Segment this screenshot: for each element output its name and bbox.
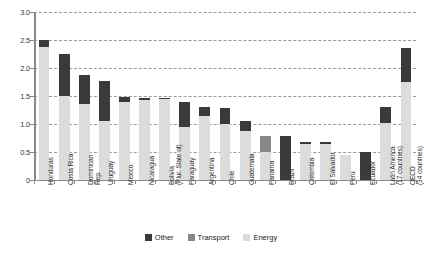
chart-legend: OtherTransportEnergy <box>0 233 422 242</box>
x-axis-label-line: (34 countries) <box>416 146 423 185</box>
legend-label: Other <box>155 233 174 242</box>
y-axis-tick-label: 1.5 <box>4 92 30 101</box>
x-axis-label-line: Ecuador <box>369 161 376 185</box>
x-axis-tick-mark <box>135 180 136 184</box>
bar-segment-other <box>99 81 110 121</box>
x-axis-label: Argentina <box>208 158 215 185</box>
legend-item[interactable]: Other <box>145 233 174 242</box>
x-axis-label-line: Argentina <box>208 158 215 185</box>
x-axis-label-line: Guatemala <box>248 154 255 185</box>
legend-label: Energy <box>253 233 277 242</box>
bar-group[interactable] <box>360 12 371 180</box>
bar-group[interactable] <box>280 12 291 180</box>
x-axis-label-line: El Salvador <box>329 152 336 185</box>
x-axis-label-line: Peru <box>349 171 356 185</box>
x-axis-label-line: Costa Rica <box>67 154 74 185</box>
x-axis-label: Ecuador <box>369 161 376 185</box>
x-axis-label-line: Nicaragua <box>148 156 155 185</box>
bar-group[interactable] <box>139 12 150 180</box>
x-axis-label: OECD(34 countries) <box>409 146 424 185</box>
bar-segment-other <box>199 107 210 115</box>
x-axis-label-line: Latin America <box>389 146 396 185</box>
x-axis-labels: HondurasCosta RicaDominicanRep.UruguayMe… <box>34 185 416 233</box>
x-axis-label-line: Mexico <box>127 165 134 185</box>
x-axis-label: Costa Rica <box>67 154 74 185</box>
x-axis-label-line: Brazil <box>288 169 295 185</box>
x-axis-tick-mark <box>295 180 296 184</box>
bar-group[interactable] <box>340 12 351 180</box>
x-axis-label: Colombia <box>308 158 315 185</box>
bar-group[interactable] <box>300 12 311 180</box>
bar-group[interactable] <box>260 12 271 180</box>
x-axis-label: Guatemala <box>248 154 255 185</box>
legend-swatch <box>188 234 195 241</box>
x-axis-label: Brazil <box>288 169 295 185</box>
bar-group[interactable] <box>39 12 50 180</box>
bar-segment-other <box>401 48 412 82</box>
x-axis-tick-mark <box>34 180 35 184</box>
x-axis-label: DominicanRep. <box>87 155 102 185</box>
bar-group[interactable] <box>220 12 231 180</box>
y-axis-tick-label: 3.0 <box>4 8 30 17</box>
x-axis-tick-mark <box>114 180 115 184</box>
x-axis-label-line: Dominican <box>87 155 94 185</box>
bar-segment-other <box>39 40 50 47</box>
bar-segment-transport <box>260 136 271 152</box>
x-axis-tick-mark <box>315 180 316 184</box>
legend-label: Transport <box>198 233 230 242</box>
x-axis-label: Bolivia(Plur. State of) <box>168 144 183 185</box>
x-axis-label: Paraguay <box>188 158 195 185</box>
bar-segment-other <box>380 107 391 123</box>
bar-group[interactable] <box>199 12 210 180</box>
x-axis-label: Mexico <box>127 165 134 185</box>
x-axis-label-line: (17 countries) <box>396 146 403 185</box>
bar-segment-other <box>79 75 90 105</box>
x-axis-label-line: Bolivia <box>168 166 175 185</box>
x-axis-label-line: Panama <box>268 161 275 185</box>
bar-segment-other <box>240 121 251 131</box>
y-axis-tick-label: 2.5 <box>4 36 30 45</box>
bar-segment-other <box>179 102 190 127</box>
x-axis-label-line: Paraguay <box>188 158 195 185</box>
bar-group[interactable] <box>119 12 130 180</box>
x-axis-label: Panama <box>268 161 275 185</box>
x-axis-label-line: Rep. <box>95 155 102 185</box>
x-axis-label: Latin America(17 countries) <box>389 146 404 185</box>
x-axis-label: Uruguay <box>107 161 114 185</box>
x-axis-label: Chile <box>228 170 235 185</box>
y-axis-tick-label: 0.5 <box>4 148 30 157</box>
x-axis-label-line: Honduras <box>47 157 54 185</box>
x-axis-label-line: Uruguay <box>107 161 114 185</box>
legend-swatch <box>243 234 250 241</box>
y-axis-tick-label: 2.0 <box>4 64 30 73</box>
y-axis-tick-label: 0 <box>4 176 30 185</box>
x-axis-label: Peru <box>349 171 356 185</box>
bar-segment-other <box>59 54 70 96</box>
bar-segment-other <box>220 108 231 124</box>
x-axis-label: Nicaragua <box>148 156 155 185</box>
legend-swatch <box>145 234 152 241</box>
x-axis-label: El Salvador <box>329 152 336 185</box>
x-axis-label: Honduras <box>47 157 54 185</box>
x-axis-label-line: Chile <box>228 170 235 185</box>
x-axis-label-line: (Plur. State of) <box>175 144 182 185</box>
legend-item[interactable]: Transport <box>188 233 230 242</box>
legend-item[interactable]: Energy <box>243 233 277 242</box>
y-axis-tick-label: 1.0 <box>4 120 30 129</box>
x-axis-label-line: OECD <box>409 166 416 185</box>
x-axis-label-line: Colombia <box>308 158 315 185</box>
